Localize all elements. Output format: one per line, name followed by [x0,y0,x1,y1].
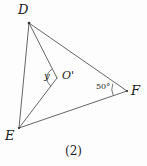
angle-arc-F [112,84,114,96]
vertex-dot-D [28,22,31,25]
vertex-dot-F [126,90,128,92]
vertex-label-f: F [131,84,140,97]
figure-caption: (2) [0,144,147,158]
segment-E-Oprime [19,78,57,128]
vertex-label-o-prime: O' [62,70,74,81]
geometry-canvas [0,0,147,166]
angle-label-50-degrees: 50° [96,83,110,91]
segment-EF [19,91,127,128]
segment-D-Oprime [29,23,57,78]
segment-DE [19,23,29,128]
vertex-label-d: D [18,3,28,16]
vertex-label-e: E [5,129,15,142]
vertex-dot-E [18,127,20,129]
angle-label-y: y [44,71,50,81]
geometry-figure: D E F O' y 50° (2) [0,0,147,166]
